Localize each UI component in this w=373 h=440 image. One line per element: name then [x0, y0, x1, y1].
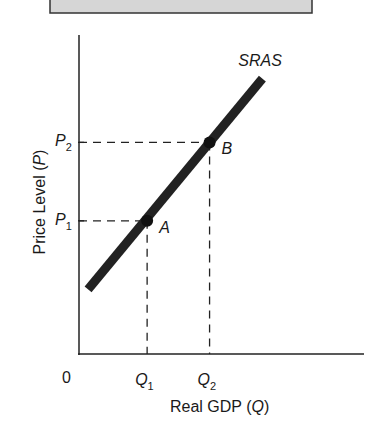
sras-curve	[88, 79, 262, 290]
x-axis-label: Real GDP (Q)	[170, 398, 269, 415]
point-label-b: B	[222, 140, 233, 157]
origin-label: 0	[62, 369, 71, 386]
x-tick-label-q2: Q2	[198, 371, 217, 392]
header-box	[50, 0, 312, 13]
point-label-a: A	[158, 219, 170, 236]
y-tick-label-p2: P2	[55, 132, 72, 153]
point-b	[204, 136, 216, 148]
y-tick-label-p1: P1	[55, 211, 72, 232]
sras-diagram: SRAS AB Q1Q2P1P2 0 Real GDP (Q) Price Le…	[0, 0, 373, 440]
sras-label: SRAS	[238, 52, 282, 69]
y-axis-label: Price Level (P)	[31, 150, 48, 255]
x-tick-label-q1: Q1	[135, 371, 154, 392]
point-a	[141, 215, 153, 227]
